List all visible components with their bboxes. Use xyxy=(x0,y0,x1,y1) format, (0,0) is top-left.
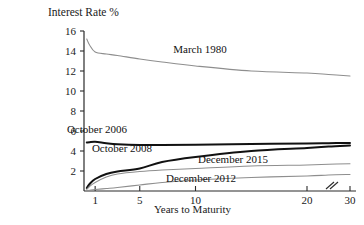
y-axis: 246810121416 xyxy=(65,25,84,191)
series-lines xyxy=(87,39,350,191)
x-tick-label: 1 xyxy=(92,194,98,206)
series-label-march-1980: March 1980 xyxy=(173,43,227,55)
y-axis-ticks: 246810121416 xyxy=(65,25,84,177)
page-title: Interest Rate % xyxy=(48,6,119,18)
axis-break-mark xyxy=(326,182,338,189)
x-tick-label: 20 xyxy=(302,194,314,206)
y-tick-label: 14 xyxy=(65,45,77,57)
y-tick-label: 10 xyxy=(65,85,77,97)
x-axis-label: Years to Maturity xyxy=(154,203,232,215)
y-tick-label: 16 xyxy=(65,25,77,37)
y-tick-label: 2 xyxy=(71,165,77,177)
series-label-october-2006: October 2006 xyxy=(67,123,128,135)
y-tick-label: 4 xyxy=(71,145,77,157)
series-label-december-2015: December 2015 xyxy=(198,153,268,165)
series-label-october-2008: October 2008 xyxy=(92,142,153,154)
interest-rate-chart: Interest Rate % 246810121416 15102030 Ye… xyxy=(0,0,364,225)
y-tick-label: 8 xyxy=(71,105,77,117)
series-annotations: March 1980October 2006October 2008Decemb… xyxy=(67,43,269,184)
series-label-december-2012: December 2012 xyxy=(166,172,236,184)
x-tick-label: 5 xyxy=(137,194,143,206)
chart-canvas: Interest Rate % 246810121416 15102030 Ye… xyxy=(0,0,364,225)
x-tick-label: 30 xyxy=(345,194,357,206)
y-tick-label: 12 xyxy=(65,65,76,77)
